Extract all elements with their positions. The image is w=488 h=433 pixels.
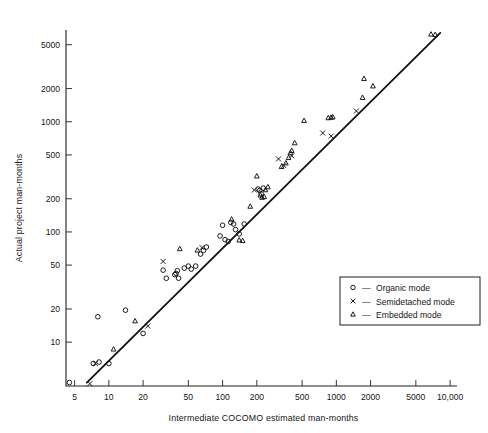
x-tick-label: 500: [295, 392, 310, 402]
y-tick-label: 10: [50, 337, 60, 347]
circle-marker: [176, 276, 181, 281]
x-tick-label: 20: [138, 392, 148, 402]
legend: —Organic mode—Semidetached mode—Embedded…: [340, 277, 480, 325]
triangle-marker: [284, 161, 289, 165]
y-tick-label: 5000: [41, 40, 60, 50]
triangle-marker: [248, 204, 253, 208]
x-axis-ticks: 510205010020050010002000500010,000: [72, 380, 463, 402]
x-marker: [145, 324, 150, 329]
x-marker: [329, 134, 334, 139]
x-marker: [87, 381, 92, 386]
x-marker: [354, 109, 359, 114]
circle-marker: [189, 267, 194, 272]
x-tick-label: 5000: [406, 392, 425, 402]
circle-marker: [141, 331, 146, 336]
circle-marker: [67, 380, 72, 385]
legend-label-1: Semidetached mode: [376, 297, 455, 307]
x-tick-label: 200: [250, 392, 265, 402]
x-marker: [320, 131, 325, 136]
triangle-marker: [195, 248, 200, 252]
circle-marker: [96, 314, 101, 319]
data-markers: [67, 32, 437, 386]
triangle-marker: [240, 238, 245, 242]
x-tick-label: 10: [104, 392, 114, 402]
circle-marker: [220, 223, 225, 228]
triangle-marker: [254, 174, 259, 178]
axis-frame: [66, 30, 457, 386]
circle-marker: [193, 264, 198, 269]
triangle-marker: [292, 140, 297, 144]
x-marker: [161, 259, 166, 264]
x-tick-label: 5: [72, 392, 77, 402]
triangle-marker: [111, 347, 116, 351]
x-tick-label: 50: [184, 392, 194, 402]
triangle-marker: [433, 32, 438, 36]
x-tick-label: 10,000: [437, 392, 464, 402]
plot-canvas: 102050100200500100020005000 510205010020…: [0, 0, 488, 433]
legend-dash-2: —: [362, 310, 371, 320]
legend-label-0: Organic mode: [376, 283, 430, 293]
triangle-marker: [266, 184, 271, 188]
triangle-marker: [286, 155, 291, 159]
circle-marker: [123, 308, 128, 313]
x-axis-title: Intermediate COCOMO estimated man-months: [169, 413, 359, 423]
circle-marker: [164, 276, 169, 281]
y-tick-label: 1000: [41, 117, 60, 127]
circle-marker: [218, 234, 223, 239]
y-tick-label: 500: [46, 150, 61, 160]
y-tick-label: 100: [46, 227, 61, 237]
x-tick-label: 2000: [361, 392, 380, 402]
y-tick-label: 200: [46, 194, 61, 204]
circle-marker: [233, 227, 238, 232]
series-organic-mode: [67, 186, 266, 385]
y-tick-label: 20: [50, 304, 60, 314]
legend-dash-1: —: [362, 297, 371, 307]
y-axis-title: Actual project man-months: [14, 153, 24, 262]
x-tick-label: 1000: [327, 392, 346, 402]
x-marker: [276, 156, 281, 161]
cocomo-scatter-figure: 102050100200500100020005000 510205010020…: [0, 0, 488, 433]
legend-label-2: Embedded mode: [376, 310, 442, 320]
triangle-marker: [302, 118, 307, 122]
triangle-marker: [362, 76, 367, 80]
y-tick-label: 2000: [41, 84, 60, 94]
y-tick-label: 50: [50, 260, 60, 270]
circle-marker: [161, 268, 166, 273]
triangle-marker: [177, 246, 182, 250]
y-axis-ticks: 102050100200500100020005000: [41, 40, 72, 347]
triangle-marker: [133, 318, 138, 322]
reference-line: [87, 33, 440, 383]
x-tick-label: 100: [215, 392, 230, 402]
triangle-marker: [429, 32, 434, 36]
triangle-marker: [360, 95, 365, 99]
legend-dash-0: —: [362, 283, 371, 293]
triangle-marker: [371, 83, 376, 87]
